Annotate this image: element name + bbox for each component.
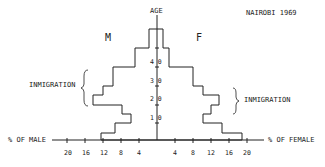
x-tick-label: 8 bbox=[119, 149, 123, 157]
left-annotation: INMIGRATION bbox=[29, 81, 75, 89]
x-tick-label: 12 bbox=[100, 149, 108, 157]
x-tick-label: 16 bbox=[225, 149, 233, 157]
age-tick-40: 4 0 bbox=[150, 58, 162, 66]
chart-title: NAIROBI 1969 bbox=[246, 9, 297, 17]
x-tick-label: 4 bbox=[137, 149, 141, 157]
x-tick-label: 8 bbox=[191, 149, 195, 157]
x-tick-label: 4 bbox=[173, 149, 177, 157]
x-label-left: % OF MALE bbox=[8, 136, 46, 144]
x-label-right: % OF FEMALE bbox=[268, 136, 314, 144]
left-brace bbox=[81, 70, 88, 106]
x-tick-label: 16 bbox=[82, 149, 90, 157]
right-annotation: INMIGRATION bbox=[244, 96, 290, 104]
male-pyramid bbox=[93, 29, 157, 140]
x-tick-label: 20 bbox=[64, 149, 72, 157]
age-axis-label: AGE bbox=[150, 7, 163, 15]
female-pyramid bbox=[157, 29, 242, 140]
age-tick-30: 3 0 bbox=[150, 77, 162, 85]
age-tick-20: 2 0 bbox=[150, 95, 162, 103]
age-tick-10: 1 0 bbox=[150, 114, 162, 122]
x-tick-label: 12 bbox=[207, 149, 215, 157]
x-tick-label: 20 bbox=[243, 149, 251, 157]
right-brace bbox=[233, 88, 239, 114]
female-label: F bbox=[196, 32, 202, 43]
male-label: M bbox=[105, 32, 111, 43]
